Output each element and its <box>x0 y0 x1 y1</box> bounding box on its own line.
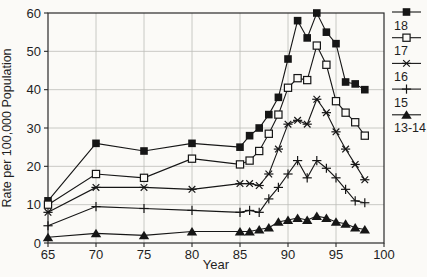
series-17 <box>44 42 368 208</box>
y-tick-label-60: 60 <box>27 6 41 21</box>
y-tick-label-0: 0 <box>34 236 41 251</box>
x-tick-label-65: 65 <box>41 247 55 262</box>
y-tick-label-30: 30 <box>27 121 41 136</box>
x-tick-label-100: 100 <box>373 247 395 262</box>
series-line-17 <box>48 46 365 205</box>
legend-item-16: 16 <box>392 60 421 84</box>
legend-label-18: 18 <box>394 19 408 33</box>
legend-marker-square-open-icon <box>403 34 410 41</box>
legend-label-17: 17 <box>394 44 408 58</box>
legend-marker-plus-icon <box>402 85 411 94</box>
series-13-14 <box>43 212 370 242</box>
legend-label-15: 15 <box>394 96 408 110</box>
legend-item-13-14: 13-14 <box>392 110 426 135</box>
y-axis-label: Rate per 100,000 Population <box>0 48 14 207</box>
x-tick-label-90: 90 <box>281 247 295 262</box>
legend-marker-square-filled-icon <box>403 8 411 16</box>
legend-item-18: 18 <box>392 8 421 32</box>
y-tick-label-40: 40 <box>27 82 41 97</box>
x-tick-label-95: 95 <box>329 247 343 262</box>
legend-label-13-14: 13-14 <box>394 121 426 135</box>
y-tick-label-20: 20 <box>27 159 41 174</box>
y-tick-label-10: 10 <box>27 197 41 212</box>
legend-item-15: 15 <box>392 85 421 110</box>
data-series <box>43 9 370 241</box>
line-chart-figure: 657075808590951000102030405060 181716151… <box>0 0 427 277</box>
x-axis-label: Year <box>203 257 230 272</box>
legend-label-16: 16 <box>394 70 408 84</box>
series-16 <box>43 96 369 216</box>
series-line-16 <box>48 99 365 212</box>
legend: 1817161513-14 <box>392 8 426 135</box>
x-tick-label-70: 70 <box>89 247 103 262</box>
legend-marker-asterisk-icon <box>402 60 411 67</box>
x-tick-label-85: 85 <box>233 247 247 262</box>
y-tick-label-50: 50 <box>27 44 41 59</box>
chart-canvas: 657075808590951000102030405060 181716151… <box>0 0 427 277</box>
x-tick-label-80: 80 <box>185 247 199 262</box>
legend-item-17: 17 <box>392 34 421 58</box>
x-tick-label-75: 75 <box>137 247 151 262</box>
